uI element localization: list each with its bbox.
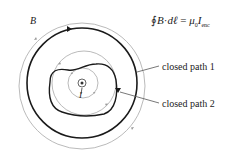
path-1-arrow-icon <box>67 26 72 32</box>
formula-dl: dℓ <box>167 14 177 26</box>
ampere-formula: ∮B·dℓ = μ0Ienc <box>151 15 210 28</box>
leader-path-2 <box>120 92 159 103</box>
label-closed-path-1: closed path 1 <box>162 62 215 72</box>
field-arrow-icon <box>34 37 37 40</box>
closed-path-2 <box>49 64 116 116</box>
formula-i-sub: enc <box>201 22 209 28</box>
label-closed-path-2: closed path 2 <box>162 99 215 109</box>
formula-b: B <box>157 14 164 26</box>
field-arrow-icon <box>131 127 134 130</box>
formula-equals: = <box>180 14 186 26</box>
current-label-i: I <box>79 91 82 100</box>
field-label-b: B <box>30 16 36 26</box>
current-dot-icon <box>81 82 84 85</box>
leader-path-1 <box>137 66 159 72</box>
